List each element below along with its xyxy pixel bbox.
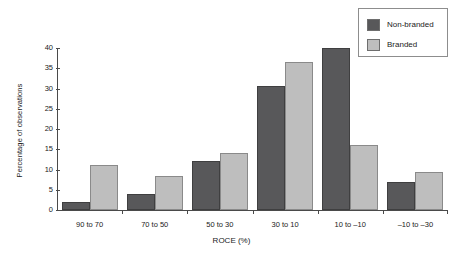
bar-non-branded [62,202,90,210]
x-axis-category-label: –10 to –30 [383,220,448,229]
x-axis-category-label: 10 to –10 [318,220,383,229]
y-axis-tick: 40 [57,48,62,49]
y-axis-tick-label: 0 [49,205,53,214]
bar-branded [285,62,313,210]
y-axis-tick: 35 [57,68,62,69]
y-axis-tick-label: 30 [45,84,53,93]
bar-branded [220,153,248,210]
x-axis-title-text: ROCE (%) [213,236,251,245]
y-axis-tick: 20 [57,129,62,130]
bar-chart-figure: Non-branded Branded Percentage of observ… [0,0,463,257]
y-axis-tick-mark [56,68,60,69]
y-axis-tick-label: 10 [45,165,53,174]
x-axis-title: ROCE (%) [0,236,463,245]
y-axis-tick-label: 25 [45,104,53,113]
y-axis-tick: 10 [57,170,62,171]
y-axis-tick-mark [56,170,60,171]
y-axis-tick: 15 [57,149,62,150]
y-axis-tick-label: 20 [45,124,53,133]
x-axis-category-label: 30 to 10 [253,220,318,229]
bar-branded [155,176,183,210]
y-axis-tick-mark [56,109,60,110]
y-axis-tick-mark [56,149,60,150]
x-axis-tick-mark [122,210,123,214]
y-axis-tick: 0 [57,210,62,211]
y-axis-tick-mark [56,190,60,191]
y-axis-tick-label: 35 [45,63,53,72]
bar-non-branded [322,48,350,210]
y-axis-tick: 25 [57,109,62,110]
x-axis-category-label: 70 to 50 [122,220,187,229]
y-axis-tick-mark [56,210,60,211]
y-axis-tick: 5 [57,190,62,191]
plot-area: 0510152025303540 90 to 7070 to 5050 to 3… [57,48,448,210]
y-axis-tick-mark [56,48,60,49]
y-axis-tick-mark [56,89,60,90]
x-axis-tick-mark [383,210,384,214]
y-axis-title: Percentage of observations [13,55,27,205]
bar-branded [415,172,443,210]
x-axis-category-label: 50 to 30 [187,220,252,229]
legend-swatch-non-branded [367,19,380,31]
bar-non-branded [127,194,155,210]
bar-non-branded [387,182,415,210]
y-axis-tick-label: 15 [45,144,53,153]
x-axis-tick-mark [318,210,319,214]
legend-label-non-branded: Non-branded [387,20,434,29]
y-axis-title-text: Percentage of observations [16,83,25,177]
y-axis-tick-label: 40 [45,43,53,52]
x-axis-tick-mark [253,210,254,214]
bar-non-branded [192,161,220,210]
x-axis-tick-mark [187,210,188,214]
x-axis-category-label: 90 to 70 [57,220,122,229]
y-axis-tick: 30 [57,89,62,90]
legend-entry-non-branded: Non-branded [367,16,447,33]
bar-branded [90,165,118,210]
y-axis-tick-label: 5 [49,185,53,194]
x-axis-tick-mark [447,210,448,214]
y-axis-tick-mark [56,129,60,130]
bar-non-branded [257,86,285,210]
bar-branded [350,145,378,210]
